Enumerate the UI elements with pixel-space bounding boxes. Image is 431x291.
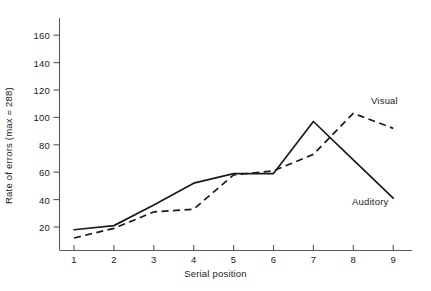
y-tick-label: 60	[14, 167, 50, 178]
x-tick-label: 6	[271, 254, 276, 265]
x-tick-label: 7	[311, 254, 316, 265]
x-axis-ticks	[74, 245, 393, 251]
x-tick-label: 9	[390, 254, 395, 265]
y-axis-title-text: Rate of errors (max = 288)	[3, 87, 14, 204]
x-tick-label: 8	[351, 254, 356, 265]
x-tick-label: 1	[71, 254, 76, 265]
y-tick-label: 20	[14, 222, 50, 233]
x-tick-label: 2	[111, 254, 116, 265]
y-tick-label: 100	[14, 112, 50, 123]
series-annotation-visual: Visual	[371, 95, 398, 106]
y-axis-title: Rate of errors (max = 288)	[0, 0, 16, 291]
y-tick-label: 140	[14, 57, 50, 68]
series-annotation-auditory: Auditory	[352, 196, 388, 207]
y-axis-ticks	[54, 35, 60, 227]
x-axis-title: Serial position	[0, 268, 431, 279]
y-tick-label: 40	[14, 194, 50, 205]
x-tick-label: 4	[191, 254, 196, 265]
y-tick-label: 120	[14, 85, 50, 96]
y-tick-label: 160	[14, 30, 50, 41]
chart-figure: 20406080100120140160 123456789 Serial po…	[0, 0, 431, 291]
series-line-visual	[74, 113, 393, 238]
x-tick-label: 5	[231, 254, 236, 265]
plot-area	[0, 0, 431, 291]
y-tick-label: 80	[14, 139, 50, 150]
x-tick-label: 3	[151, 254, 156, 265]
